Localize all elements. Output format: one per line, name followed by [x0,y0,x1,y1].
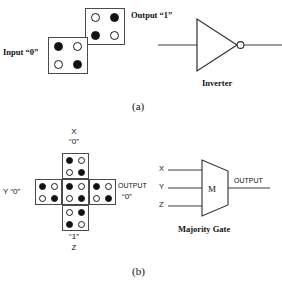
qca-dot [54,60,63,69]
cell-output [89,179,116,205]
input-cell [48,37,88,74]
panel-b-caption: (b) [132,265,145,277]
qca-dot [78,209,85,216]
output-label-value: “0” [122,192,132,201]
qca-dot [66,221,73,228]
cell-x-input [62,153,89,179]
cell-y-input [35,179,62,205]
qca-dot [110,31,119,40]
z-input-name: Z [64,243,84,252]
inverter-symbol [158,14,282,76]
z-input-value: “1” [64,232,84,241]
figure-canvas: Output “1” Input “0” Inverter (a) X [0,0,282,289]
qca-dot [51,195,58,202]
qca-dot [73,60,82,69]
qca-dot [39,183,46,190]
qca-dot [93,183,100,190]
qca-dot [91,13,100,22]
input-cell-label: Input “0” [3,48,38,57]
panel-a-caption: (a) [132,100,144,112]
x-input-name: X [64,127,84,136]
qca-dot [78,183,85,190]
qca-dot [105,195,112,202]
qca-dot [105,183,112,190]
x-input-value: “0” [64,137,84,146]
inverter-name: Inverter [202,79,232,88]
qca-dot [54,42,63,51]
qca-dot [66,183,73,190]
qca-dot [66,157,73,164]
gate-input-y-label: Y [159,183,164,192]
qca-dot [78,221,85,228]
qca-dot [66,195,73,202]
gate-input-x-label: X [159,165,164,174]
majority-gate-symbol: M [166,158,278,220]
majority-gate-name: Majority Gate [178,225,230,234]
qca-dot [73,42,82,51]
qca-dot [110,13,119,22]
cell-device [62,179,89,205]
gate-input-z-label: Z [159,201,164,210]
panel-a: Output “1” Input “0” Inverter (a) [0,0,282,125]
qca-dot [39,195,46,202]
output-label-name: OUTPUT [118,182,147,190]
qca-dot [78,169,85,176]
qca-dot [78,195,85,202]
panel-b: X “0” [0,122,282,289]
qca-dot [93,195,100,202]
cell-z-input [62,205,89,231]
y-input-label: Y “0” [3,187,20,196]
qca-dot [51,183,58,190]
qca-dot [78,157,85,164]
qca-dot [91,31,100,40]
gate-output-label: OUTPUT [234,177,263,185]
svg-text:M: M [208,184,216,194]
qca-dot [66,169,73,176]
output-cell [85,8,125,45]
qca-dot [66,209,73,216]
